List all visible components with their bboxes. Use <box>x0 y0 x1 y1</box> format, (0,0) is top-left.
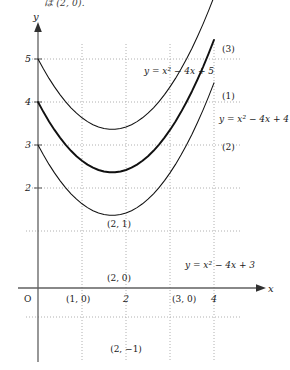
top-note: は (2, 0). <box>44 0 85 9</box>
x-axis-arrow <box>256 284 266 292</box>
point-label-3-0: (3, 0) <box>172 294 196 304</box>
y-tick-label-5: 5 <box>25 53 31 64</box>
equation-label-bot: y = x² − 4x + 3 <box>184 260 255 270</box>
axes <box>18 22 266 362</box>
x-tick-label-2: 2 <box>122 293 129 304</box>
y-tick-label-4: 4 <box>24 96 31 107</box>
index-label-1: (1) <box>222 91 235 101</box>
vertical-gridlines <box>82 44 214 362</box>
vertex-label-2-0: (2, 0) <box>107 273 131 283</box>
vertex-label-2-1: (2, 1) <box>107 219 131 229</box>
equation-label-top: y = x² − 4x + 5 <box>143 66 214 76</box>
origin-label: O <box>24 294 31 304</box>
x-axis-label: x <box>268 283 274 294</box>
y-axis-arrow <box>34 22 42 32</box>
x-tick-label-4: 4 <box>210 293 217 304</box>
vertex-label-2-m1: (2, −1) <box>110 344 142 354</box>
point-label-1-0: (1, 0) <box>66 294 90 304</box>
parabola-plot-svg: 5 4 3 2 2 4 y x O y = x² − 4x + 5 y = x²… <box>0 0 290 370</box>
index-label-2: (2) <box>222 142 235 152</box>
equation-label-mid: y = x² − 4x + 4 <box>218 114 289 124</box>
parabola-figure: は (2, 0). <box>0 0 290 370</box>
index-label-3: (3) <box>222 44 235 54</box>
y-axis-label: y <box>32 11 39 22</box>
y-tick-label-3: 3 <box>25 139 31 150</box>
y-tick-label-2: 2 <box>24 182 31 193</box>
